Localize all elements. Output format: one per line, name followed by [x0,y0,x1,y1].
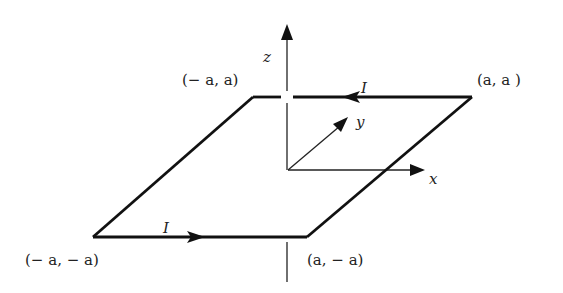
y-axis [288,117,348,170]
current-label-bottom: I [162,219,170,237]
x-axis-label: x [429,170,438,188]
z-axis [281,24,293,282]
corner-label-top-right: (a, a ) [477,71,521,89]
z-axis-label: z [262,48,271,66]
corner-label-bottom-left: (− a, − a) [25,251,99,269]
corner-label-bottom-right: (a, − a) [307,251,363,269]
current-label-top: I [360,79,368,97]
x-axis [288,164,425,176]
x-axis-arrowhead-icon [410,164,425,176]
z-axis-arrowhead-icon [281,24,293,40]
y-axis-label: y [355,113,365,131]
corner-label-top-left: (− a, a) [182,71,238,89]
diagram-canvas: z y x I I (− a, a) (a, a ) (− a, − a) (a… [0,0,563,293]
